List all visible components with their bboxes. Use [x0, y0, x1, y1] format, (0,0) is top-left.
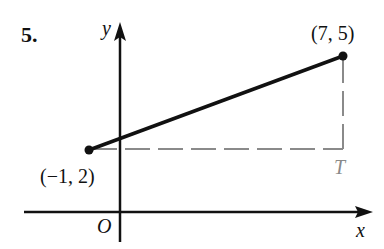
corner-t-label: T [334, 157, 345, 177]
point-start-label: (−1, 2) [40, 166, 95, 186]
x-axis-label: x [356, 220, 365, 240]
segment [89, 56, 343, 150]
problem-number: 5. [21, 24, 38, 46]
point-start [85, 146, 94, 155]
point-end [339, 52, 348, 61]
y-axis-label: y [102, 18, 111, 38]
origin-label: O [97, 216, 111, 236]
point-end-label: (7, 5) [311, 23, 354, 43]
